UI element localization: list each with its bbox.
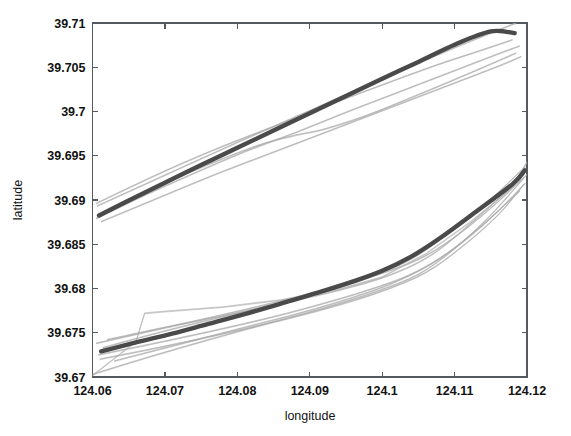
mean-trajectory-line [101,170,525,351]
x-tick-label: 124.06 [73,384,111,398]
trajectory-line [96,46,520,219]
y-tick-label: 39.67 [54,371,85,385]
x-tick-label: 124.11 [436,384,474,398]
scatter-trajectory-plot: 124.06124.07124.08124.09124.1124.11124.1… [0,0,571,436]
y-tick-label: 39.7 [61,105,85,119]
y-axis-tick-labels: 39.6739.67539.6839.68539.6939.69539.739.… [47,17,85,385]
y-tick-label: 39.675 [47,326,85,340]
trajectory-line [93,162,528,376]
y-tick-label: 39.705 [47,61,85,75]
trajectory-line [93,174,528,374]
trajectory-line [98,192,519,356]
data-layer [93,23,528,377]
trajectory-line [100,184,524,359]
trajectory-line [98,53,516,215]
trajectory-line [93,174,528,374]
trajectory-line [103,166,526,347]
x-tick-label: 124.07 [146,384,184,398]
trajectory-line [107,180,520,340]
trajectory-line [107,180,520,340]
y-axis-title: latitude [11,180,25,220]
x-axis-tick-labels: 124.06124.07124.08124.09124.1124.11124.1… [73,384,546,398]
figure-canvas: 124.06124.07124.08124.09124.1124.11124.1… [0,0,571,436]
individual-trajectories [93,23,528,377]
trajectory-line [100,184,524,359]
y-tick-label: 39.71 [54,17,85,31]
x-tick-label: 124.08 [218,384,256,398]
trajectory-line [100,185,524,360]
y-tick-label: 39.69 [54,194,85,208]
trajectory-line [101,56,521,221]
mean-trajectories [99,31,525,352]
x-axis-title: longitude [285,409,336,423]
trajectory-line [103,166,526,347]
trajectory-line [98,54,516,216]
trajectory-line [101,57,521,222]
x-tick-label: 124.09 [291,384,329,398]
trajectory-line [96,177,524,343]
trajectory-line [93,175,528,375]
trajectory-line [98,191,519,355]
trajectory-line [93,162,528,376]
trajectory-line [107,179,520,339]
trajectory-line [96,177,524,343]
y-tick-label: 39.685 [47,238,85,252]
y-tick-label: 39.68 [54,282,85,296]
trajectory-line [96,177,524,343]
trajectory-line [96,40,512,204]
trajectory-line [98,191,519,355]
y-tick-label: 39.695 [47,149,85,163]
x-tick-label: 124.12 [508,384,546,398]
x-tick-label: 124.1 [367,384,398,398]
